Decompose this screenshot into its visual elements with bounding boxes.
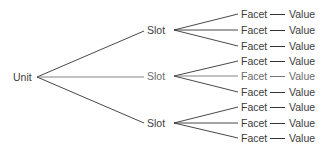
facet-node: Facet [241, 55, 267, 67]
slot-node-3: Slot [147, 117, 165, 129]
value-node: Value [289, 8, 315, 20]
edge-unit-slot-3 [37, 77, 144, 123]
facet-value-connector [270, 123, 285, 124]
facet-value-connector [270, 61, 285, 62]
slot-node-2: Slot [147, 70, 165, 82]
value-node: Value [289, 132, 315, 144]
facet-value-connector [270, 138, 285, 139]
value-node: Value [289, 55, 315, 67]
facet-node: Facet [241, 86, 267, 98]
facet-node: Facet [241, 132, 267, 144]
facet-value-connector [270, 107, 285, 108]
edge-slot-3-facet-1 [174, 107, 238, 123]
value-node: Value [289, 86, 315, 98]
facet-node: Facet [241, 40, 267, 52]
facet-node: Facet [241, 8, 267, 20]
edge-slot-1-facet-1 [174, 14, 238, 30]
facet-value-connector [270, 30, 285, 31]
facet-node: Facet [241, 24, 267, 36]
edge-slot-3-facet-3 [174, 123, 238, 138]
facet-value-connector [270, 76, 285, 77]
unit-node: Unit [13, 71, 32, 83]
facet-value-connector [270, 92, 285, 93]
facet-node: Facet [241, 117, 267, 129]
edge-slot-2-facet-1 [174, 61, 238, 76]
value-node: Value [289, 117, 315, 129]
edge-unit-slot-1 [37, 31, 144, 77]
edge-slot-1-facet-3 [174, 30, 238, 46]
value-node: Value [289, 24, 315, 36]
facet-node: Facet [241, 70, 267, 82]
facet-node: Facet [241, 101, 267, 113]
facet-value-connector [270, 46, 285, 47]
value-node: Value [289, 101, 315, 113]
value-node: Value [289, 70, 315, 82]
value-node: Value [289, 40, 315, 52]
slot-node-1: Slot [147, 24, 165, 36]
edge-slot-2-facet-3 [174, 76, 238, 92]
facet-value-connector [270, 14, 285, 15]
